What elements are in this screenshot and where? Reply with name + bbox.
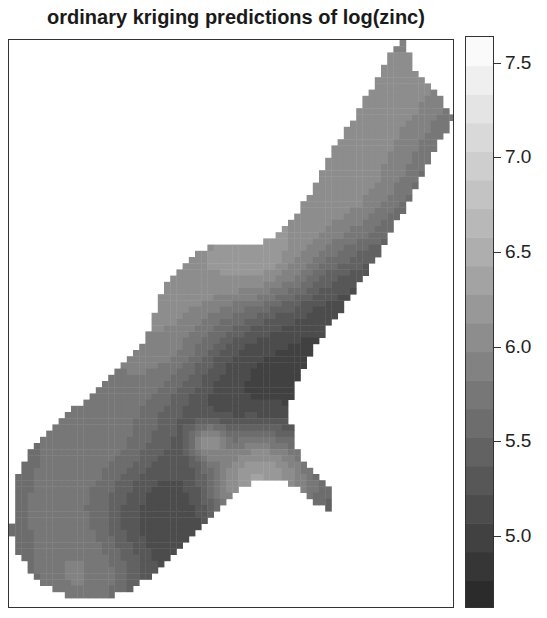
chart-title: ordinary kriging predictions of log(zinc…	[0, 6, 472, 29]
colorbar-tick-label: 6.5	[505, 242, 531, 261]
colorbar-tick-mark	[494, 157, 501, 158]
colorbar-tick-label: 5.0	[505, 526, 531, 545]
colorbar-tick-mark	[494, 252, 501, 253]
colorbar-tick-mark	[494, 536, 501, 537]
colorbar-tick-label: 7.0	[505, 147, 531, 166]
colorbar-tick-mark	[494, 347, 501, 348]
kriging-map-panel	[8, 39, 454, 608]
colorbar-tick-label: 5.5	[505, 431, 531, 450]
kriging-prediction-raster	[9, 40, 454, 608]
colorbar-tick-label: 7.5	[505, 53, 531, 72]
colorbar-gradient	[466, 37, 494, 608]
colorbar-tick-mark	[494, 63, 501, 64]
colorbar-tick-mark	[494, 441, 501, 442]
colorbar	[465, 36, 494, 608]
colorbar-tick-label: 6.0	[505, 337, 531, 356]
